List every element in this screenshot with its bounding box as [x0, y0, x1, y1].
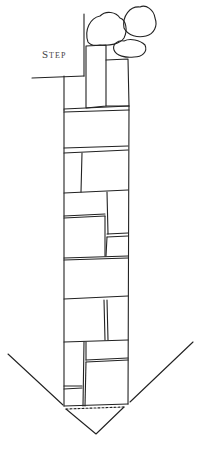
downward-chevron	[8, 342, 193, 434]
step-label: Step	[42, 48, 66, 60]
step	[32, 14, 84, 110]
shrubs	[87, 6, 156, 57]
flagstone-path	[64, 106, 129, 406]
stone-path-diagram: Step	[0, 0, 204, 450]
shrub-top-right	[124, 6, 156, 37]
path-illustration	[0, 0, 204, 450]
